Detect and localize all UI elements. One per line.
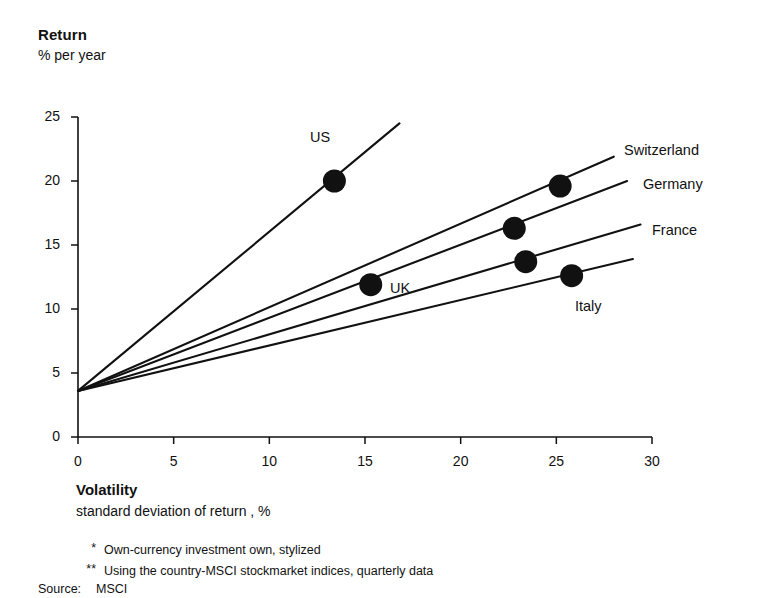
chart-figure: Return % per year 0510152025051015202530… (0, 0, 758, 598)
capital-market-line-switzerland (78, 157, 614, 391)
capital-market-line-italy (78, 259, 633, 391)
series-label-germany: Germany (643, 176, 703, 192)
source-value: MSCI (96, 582, 127, 596)
series-label-france: France (652, 222, 697, 238)
series-label-uk: UK (390, 280, 410, 296)
x-tick-label: 30 (637, 453, 667, 469)
data-point-italy (560, 264, 583, 287)
series-label-us: US (310, 129, 330, 145)
capital-market-line-france (78, 225, 641, 391)
x-tick-label: 15 (350, 453, 380, 469)
capital-market-line-us (78, 123, 399, 391)
x-axis-subtitle: standard deviation of return , % (76, 503, 271, 519)
footnote-marker: * (80, 541, 96, 555)
data-point-france (514, 250, 537, 273)
source-label: Source: (38, 582, 81, 596)
x-tick-label: 10 (254, 453, 284, 469)
x-tick-label: 25 (541, 453, 571, 469)
y-tick-label: 0 (30, 428, 60, 444)
capital-market-line-germany (78, 181, 627, 391)
y-tick-label: 20 (30, 172, 60, 188)
footnote-marker: ** (80, 562, 96, 576)
data-point-germany (503, 217, 526, 240)
x-tick-label: 5 (159, 453, 189, 469)
footnote-text: Own-currency investment own, stylized (104, 543, 321, 557)
x-tick-label: 20 (446, 453, 476, 469)
series-label-switzerland: Switzerland (624, 142, 699, 158)
x-tick-label: 0 (63, 453, 93, 469)
data-point-uk (359, 273, 382, 296)
y-tick-label: 15 (30, 236, 60, 252)
y-tick-label: 5 (30, 364, 60, 380)
data-point-switzerland (549, 175, 572, 198)
footnote-text: Using the country-MSCI stockmarket indic… (104, 564, 433, 578)
source-line: Source: MSCI (38, 582, 127, 596)
y-tick-label: 10 (30, 300, 60, 316)
series-label-italy: Italy (575, 298, 602, 314)
y-tick-label: 25 (30, 108, 60, 124)
data-point-us (323, 170, 346, 193)
x-axis-title: Volatility (76, 481, 137, 498)
